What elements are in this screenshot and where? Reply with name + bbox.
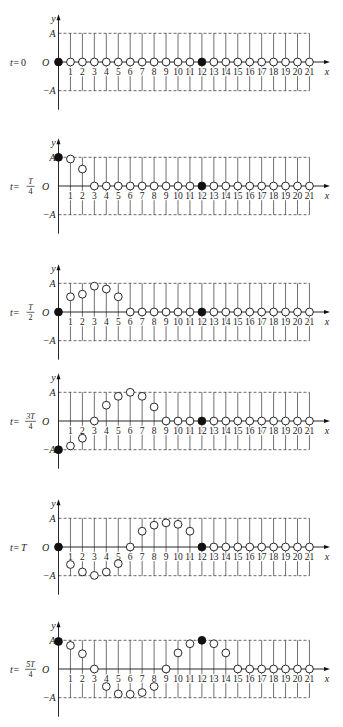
y-axis-label: y — [50, 137, 56, 148]
particle-open-marker — [186, 182, 194, 190]
x-tick-label: 16 — [245, 552, 255, 562]
x-tick-label: 20 — [293, 426, 303, 436]
x-tick-label: 2 — [80, 552, 85, 562]
particle-open-marker — [234, 182, 242, 190]
particle-open-marker — [210, 308, 218, 316]
x-tick-label: 10 — [173, 426, 183, 436]
x-tick-label: 11 — [185, 426, 194, 436]
particle-open-marker — [210, 543, 218, 551]
particle-filled-marker — [198, 636, 206, 644]
particle-open-marker — [246, 543, 254, 551]
x-tick-label: 5 — [116, 67, 121, 77]
x-tick-label: 18 — [269, 426, 279, 436]
x-tick-label: 3 — [92, 674, 97, 684]
time-label-denominator: 4 — [29, 422, 33, 431]
particle-open-marker — [79, 290, 87, 298]
x-tick-label: 21 — [305, 552, 315, 562]
x-tick-label: 20 — [293, 191, 303, 201]
particle-open-marker — [67, 293, 75, 301]
particle-open-marker — [138, 182, 146, 190]
x-tick-label: 2 — [80, 67, 85, 77]
x-tick-label: 19 — [281, 426, 291, 436]
amplitude-positive-label: A — [48, 387, 56, 398]
x-tick-label: 17 — [257, 67, 267, 77]
x-tick-label: 17 — [257, 191, 267, 201]
x-tick-label: 6 — [128, 552, 133, 562]
x-axis-label: x — [324, 316, 330, 327]
particle-open-marker — [67, 155, 75, 163]
x-tick-label: 8 — [152, 317, 157, 327]
particle-filled-marker — [198, 543, 206, 551]
particle-open-marker — [79, 165, 87, 173]
particle-filled-marker — [198, 417, 206, 425]
y-axis-arrow-icon — [57, 264, 61, 270]
x-tick-label: 13 — [209, 67, 219, 77]
particle-open-marker — [67, 442, 75, 450]
amplitude-positive-label: A — [48, 28, 56, 39]
y-axis-arrow-icon — [57, 621, 61, 627]
x-tick-label: 10 — [173, 191, 183, 201]
x-tick-label: 5 — [116, 317, 121, 327]
particle-open-marker — [282, 543, 290, 551]
particle-open-marker — [150, 683, 158, 691]
x-axis-arrow-icon — [324, 60, 330, 64]
particle-open-marker — [222, 649, 230, 657]
x-tick-label: 12 — [197, 552, 207, 562]
x-tick-label: 4 — [104, 67, 109, 77]
x-tick-label: 17 — [257, 552, 267, 562]
x-tick-label: 2 — [80, 317, 85, 327]
time-label-numerator: T — [28, 303, 33, 312]
particle-filled-marker — [55, 308, 63, 316]
x-tick-label: 12 — [197, 191, 207, 201]
particle-open-marker — [162, 58, 170, 66]
particle-open-marker — [306, 308, 314, 316]
particle-open-marker — [126, 543, 134, 551]
x-tick-label: 13 — [209, 317, 219, 327]
time-label-prefix: t= — [10, 664, 20, 675]
particle-open-marker — [234, 308, 242, 316]
particle-open-marker — [162, 182, 170, 190]
particle-open-marker — [258, 665, 266, 673]
x-axis-arrow-icon — [324, 667, 330, 671]
particle-open-marker — [90, 58, 98, 66]
x-tick-label: 15 — [233, 552, 243, 562]
particle-open-marker — [294, 665, 302, 673]
particle-open-marker — [234, 58, 242, 66]
particle-open-marker — [294, 417, 302, 425]
x-tick-label: 10 — [173, 674, 183, 684]
particle-open-marker — [79, 434, 87, 442]
x-tick-label: 12 — [197, 317, 207, 327]
particle-open-marker — [162, 308, 170, 316]
particle-open-marker — [186, 308, 194, 316]
x-tick-label: 16 — [245, 674, 255, 684]
y-axis-arrow-icon — [57, 373, 61, 379]
x-axis-label: x — [324, 551, 330, 562]
particle-open-marker — [210, 182, 218, 190]
particle-open-marker — [270, 58, 278, 66]
particle-open-marker — [234, 417, 242, 425]
x-axis-label: x — [324, 190, 330, 201]
x-tick-label: 17 — [257, 317, 267, 327]
particle-open-marker — [234, 543, 242, 551]
particle-open-marker — [174, 58, 182, 66]
x-tick-label: 11 — [185, 552, 194, 562]
particle-open-marker — [102, 401, 110, 409]
x-tick-label: 4 — [104, 191, 109, 201]
particle-open-marker — [67, 58, 75, 66]
x-tick-label: 15 — [233, 426, 243, 436]
particle-open-marker — [90, 282, 98, 290]
x-tick-label: 3 — [92, 191, 97, 201]
particle-open-marker — [258, 543, 266, 551]
particle-open-marker — [270, 665, 278, 673]
y-axis-label: y — [50, 263, 56, 274]
x-tick-label: 18 — [269, 191, 279, 201]
time-label-prefix: t= — [10, 57, 20, 68]
x-tick-label: 3 — [92, 67, 97, 77]
x-tick-label: 3 — [92, 552, 97, 562]
panel-t-5T-4: 123456789101112131415161718192021yxAO−At… — [10, 620, 330, 716]
x-tick-label: 8 — [152, 191, 157, 201]
x-tick-label: 12 — [197, 674, 207, 684]
particle-open-marker — [90, 572, 98, 580]
particle-filled-marker — [55, 638, 63, 646]
particle-open-marker — [174, 417, 182, 425]
